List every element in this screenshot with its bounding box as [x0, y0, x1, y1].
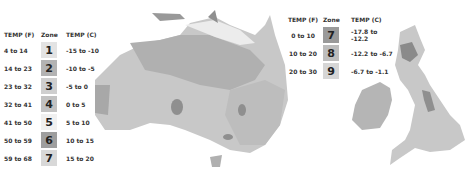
zone-swatch: 7: [41, 150, 57, 166]
zone-swatch: 9: [323, 63, 339, 79]
temp-f-range: 41 to 50: [4, 119, 41, 126]
zone-swatch: 7: [323, 27, 339, 43]
temp-f-range: 4 to 14: [4, 47, 41, 54]
temp-f-range: 59 to 68: [4, 155, 41, 162]
temp-f-range: 23 to 32: [4, 83, 41, 90]
zone-swatch: 4: [41, 96, 57, 112]
zone-swatch: 5: [41, 114, 57, 130]
zone-swatch: 1: [41, 42, 57, 58]
temp-f-range: 14 to 23: [4, 65, 41, 72]
header-zone: Zone: [41, 31, 63, 38]
header-temp-f: TEMP (F): [4, 31, 41, 38]
zone-swatch: 3: [41, 78, 57, 94]
temp-f-range: 32 to 41: [4, 101, 41, 108]
zone-swatch: 8: [323, 45, 339, 61]
zone-swatch: 6: [41, 132, 57, 148]
zone-swatch: 2: [41, 60, 57, 76]
australia-map: [90, 5, 290, 173]
uk-ireland-map: [340, 20, 476, 173]
temp-f-range: 50 to 59: [4, 137, 41, 144]
